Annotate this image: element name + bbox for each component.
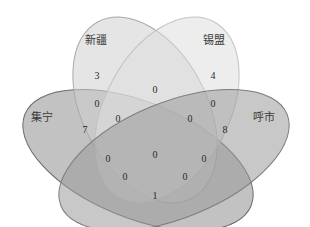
venn-diagram: 集宁 新疆 锡盟 呼市 3 4 0 0 0 7 0 0 8 0 0 0 0 0 … <box>0 0 310 227</box>
count-all-four: 0 <box>153 149 158 160</box>
count-xinjiang-ximeng: 0 <box>153 84 158 95</box>
count-jining-xinjiang-hushi: 0 <box>183 171 188 182</box>
count-hushi-only: 8 <box>223 124 228 135</box>
count-jining-ximeng: 0 <box>106 153 111 164</box>
count-jining-xinjiang-ximeng: 0 <box>116 113 121 124</box>
set-label-ximeng: 锡盟 <box>203 33 225 47</box>
count-ximeng-only: 4 <box>211 70 216 81</box>
count-jining-hushi: 1 <box>153 190 158 201</box>
count-ximeng-hushi: 0 <box>211 98 216 109</box>
count-jining-xinjiang: 0 <box>95 98 100 109</box>
count-xinjiang-only: 3 <box>95 70 100 81</box>
count-jining-only: 7 <box>83 124 88 135</box>
count-xinjiang-hushi: 0 <box>202 153 207 164</box>
set-label-hushi: 呼市 <box>253 110 275 124</box>
count-jining-ximeng-hushi: 0 <box>123 171 128 182</box>
count-xinjiang-ximeng-hushi: 0 <box>188 113 193 124</box>
set-label-jining: 集宁 <box>31 110 53 124</box>
set-label-xinjiang: 新疆 <box>85 33 107 47</box>
